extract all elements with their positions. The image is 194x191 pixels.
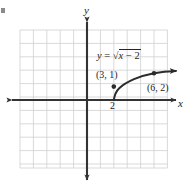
- equation-label: y = √x − 2: [97, 51, 141, 62]
- equation-equals-sign: =: [104, 50, 110, 61]
- point-label-6-2: (6, 2): [147, 83, 169, 93]
- x-axis-label: x: [178, 98, 183, 109]
- coordinate-plane: [0, 0, 194, 191]
- radicand-constant: − 2: [123, 50, 139, 61]
- x-intercept-label: 2: [110, 101, 115, 111]
- graph-figure: y x y = √x − 2 (3, 1) (6, 2) 2: [0, 0, 194, 191]
- equation-y-term: y: [97, 50, 102, 61]
- y-axis-label: y: [84, 5, 89, 16]
- radicand-group: x − 2: [119, 49, 141, 61]
- point-marker-6-2: [152, 71, 157, 76]
- point-label-3-1: (3, 1): [96, 70, 118, 80]
- point-marker-3-1: [112, 84, 117, 89]
